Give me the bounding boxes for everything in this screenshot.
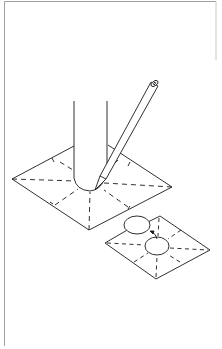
square-sheet-with-cut-circle xyxy=(105,216,210,279)
illustration xyxy=(0,0,222,349)
border-frame xyxy=(5,2,217,347)
circular-cutout-disc xyxy=(124,216,150,234)
